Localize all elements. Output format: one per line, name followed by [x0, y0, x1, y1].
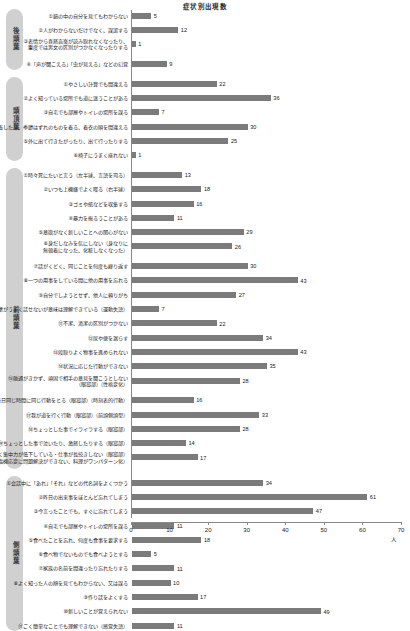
bar-row-label: ⑥身だしなみを気にしない（身なりに 無頓着になった、化粧しなくなった）: [0, 240, 128, 252]
bar-value-label: 26: [235, 244, 241, 250]
x-axis-unit-label: 人: [391, 536, 397, 544]
x-tick: [324, 522, 325, 525]
bar: [132, 454, 198, 460]
bar: [132, 229, 244, 235]
bar-value-label: 61: [370, 494, 376, 500]
bar-row-label: ②人がわからないだけでなく、誤認する: [0, 27, 128, 33]
bar: [132, 335, 263, 341]
bar-row-label: ②昨日の出来事をほとんど忘れてしまう: [0, 494, 128, 500]
bar-row-label: ①時々死にたいと言う（左半球、言語を司る）: [0, 172, 128, 178]
bar: [132, 426, 240, 432]
bar-value-label: 11: [177, 215, 183, 221]
bar-row-label: ④重ね着したり、季節はずれのものを着る、着衣の順を間違える: [0, 124, 128, 130]
bar-row-label: ⑦家族の名前を間違ったり忘れたりする: [0, 565, 128, 571]
bar-row-label: ⑦話がくどく、同じことを何度も繰り返す: [0, 263, 128, 269]
plot-area: ①鏡の中の自分を見てもわからない5②人がわからないだけでなく、誤認する12③表情…: [0, 10, 410, 522]
bar-row-label: ④自宅でも部屋やトイレの場所を誤る: [0, 523, 128, 529]
bar-value-label: 12: [181, 27, 187, 33]
bar: [132, 13, 151, 19]
x-tick-label: 50: [314, 527, 334, 533]
x-tick-label: 30: [237, 527, 257, 533]
bar: [132, 349, 298, 355]
bar: [132, 363, 267, 369]
x-tick: [247, 522, 248, 525]
bar: [132, 277, 298, 283]
bar: [132, 292, 236, 298]
bar: [132, 172, 182, 178]
bar: [132, 215, 174, 221]
bar: [132, 580, 171, 586]
x-tick: [131, 522, 132, 525]
bar-row-label: ⑩言葉がうまく話せないが意味は理解できている（運動失語）: [0, 306, 128, 312]
bar: [132, 594, 198, 600]
bar-value-label: 22: [219, 81, 225, 87]
bar-row-label: ⑤外に出て行きたがったり、出て行ったりする: [0, 138, 128, 144]
bar-value-label: 9: [169, 61, 172, 67]
bar: [132, 95, 271, 101]
bar: [132, 27, 178, 33]
bar-value-label: 17: [200, 455, 206, 461]
bar-value-label: 18: [204, 537, 210, 543]
bar-row-label: ⑭状況に応じた行動ができない: [0, 363, 128, 369]
x-tick: [285, 522, 286, 525]
bar-value-label: 18: [204, 186, 210, 192]
bar-row-label: ①会話中に「あれ」「それ」などの代名詞をよくつかう: [0, 480, 128, 486]
bar-row-label: ⑱ちょっとした事でイライラする（眼窩部）: [0, 426, 128, 432]
bar-value-label: 34: [266, 480, 272, 486]
bar-row-label: ⑳忍耐力がなく集中力が低下している・仕事が長続きしない（眼窩部） （臨機応変に問…: [0, 451, 128, 463]
bar: [132, 81, 217, 87]
bar-value-label: 25: [231, 138, 237, 144]
bar-value-label: 33: [262, 412, 268, 418]
bar-row-label: ①鏡の中の自分を見てもわからない: [0, 13, 128, 19]
bar-row-label: ④暴力を振るうことがある: [0, 215, 128, 221]
bar-row-label: ⑤意欲がなく新しいことへの関心がない: [0, 229, 128, 235]
bar-row-label: ⑲ちょっとした事で泣いたり、激怒したりする（眼窩部）: [0, 440, 128, 446]
bar-value-label: 28: [243, 426, 249, 432]
bar-value-label: 27: [239, 292, 245, 298]
bar-row-label: ⑪ごく簡単なことでも理解できない（感覚失語）: [0, 623, 128, 629]
bar: [132, 440, 186, 446]
bar: [132, 201, 194, 207]
bar-row-label: ②いつも上機嫌でよく喋る（右半球）: [0, 186, 128, 192]
bar-row-label: ①やさしい計算でも間違える: [0, 81, 128, 87]
bar-row-label: ③今言ったことでも、すぐに忘れてしまう: [0, 508, 128, 514]
bar-value-label: 35: [270, 363, 276, 369]
bar-row-label: ②よく知っている場所でも道に迷うことがある: [0, 95, 128, 101]
bar: [132, 306, 159, 312]
bar-value-label: 17: [200, 594, 206, 600]
bar-row-label: ③表情から喜怒哀楽が読み取れなくなったり、 重度では男女の区別がつかなくなったり…: [0, 38, 128, 50]
bar-row-label: ③ゴミや紙などを収集する: [0, 201, 128, 207]
x-tick: [401, 522, 402, 525]
bar-row-label: ⑤食べたことを忘れ、何度も食事を要求する: [0, 537, 128, 543]
bar-row-label: ⑥椅子にうまく座れない: [0, 152, 128, 158]
bar-row-label: ⑰我が道を行く行動（眼窩部）（前頭側頭型）: [0, 412, 128, 418]
bar-value-label: 5: [154, 551, 157, 557]
bar-row-label: ④「声が聞こえる」「虫が見える」などの幻覚: [0, 61, 128, 67]
bar-value-label: 22: [219, 321, 225, 327]
bar-value-label: 30: [250, 263, 256, 269]
bar: [132, 109, 159, 115]
bar: [132, 397, 194, 403]
bar-value-label: 47: [316, 508, 322, 514]
bar-value-label: 1: [138, 41, 141, 47]
bar-value-label: 36: [273, 95, 279, 101]
bar-row-label: ⑧一つの用事をしている間に他の用事を忘れる: [0, 277, 128, 283]
bar: [132, 41, 136, 47]
x-tick: [170, 522, 171, 525]
bar-value-label: 13: [185, 172, 191, 178]
x-tick-label: 10: [160, 527, 180, 533]
x-tick-label: 70: [391, 527, 410, 533]
bar: [132, 186, 201, 192]
bar-value-label: 28: [243, 378, 249, 384]
bar-row-label: ⑩新しいことが覚えられない: [0, 608, 128, 614]
bar-row-label: ③自宅でも部屋やトイレの場所を誤る: [0, 109, 128, 115]
bar-value-label: 7: [162, 306, 165, 312]
x-tick: [208, 522, 209, 525]
bar-value-label: 29: [246, 229, 252, 235]
bar-value-label: 43: [300, 349, 306, 355]
x-tick-label: 20: [198, 527, 218, 533]
x-tick-label: 40: [275, 527, 295, 533]
bar: [132, 263, 248, 269]
bar: [132, 494, 367, 500]
